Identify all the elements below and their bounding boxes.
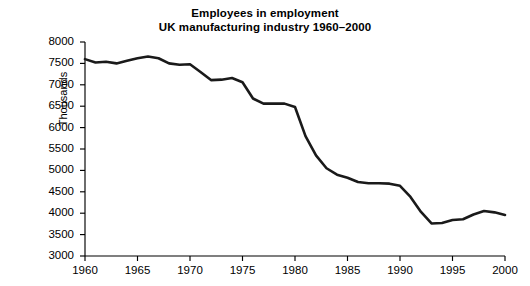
chart-axes [80, 42, 505, 261]
data-series-line [85, 57, 505, 224]
chart-container: Employees in employment UK manufacturing… [0, 0, 530, 286]
chart-plot-area [0, 0, 530, 286]
